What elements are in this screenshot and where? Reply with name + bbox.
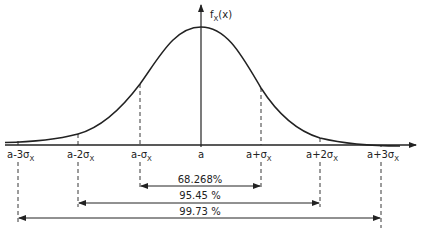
normal-distribution-diagram: fX(x) a-3σX a-2σX a-σX a a+σX a+2σX a+3σ… — [0, 0, 422, 231]
density-curve — [5, 27, 400, 146]
tick-label-a-s: a-σX — [131, 149, 152, 163]
interval-95: 95.45 % — [79, 190, 319, 203]
interval-99: 99.73 % — [19, 206, 380, 218]
interval-68-label: 68.268% — [178, 174, 223, 185]
tick-label-a+s: a+σX — [246, 149, 272, 163]
tick-label-a: a — [198, 149, 204, 160]
y-axis-label: fX(x) — [210, 9, 232, 23]
tick-label-a-3s: a-3σX — [7, 149, 34, 163]
interval-99-label: 99.73 % — [179, 206, 220, 217]
x-tick-labels: a-3σX a-2σX a-σX a a+σX a+2σX a+3σX — [7, 149, 399, 163]
interval-95-label: 95.45 % — [179, 190, 220, 201]
tick-label-a+3s: a+3σX — [367, 149, 399, 163]
tick-label-a+2s: a+2σX — [306, 149, 338, 163]
interval-68: 68.268% — [141, 174, 260, 186]
tick-label-a-2s: a-2σX — [67, 149, 94, 163]
